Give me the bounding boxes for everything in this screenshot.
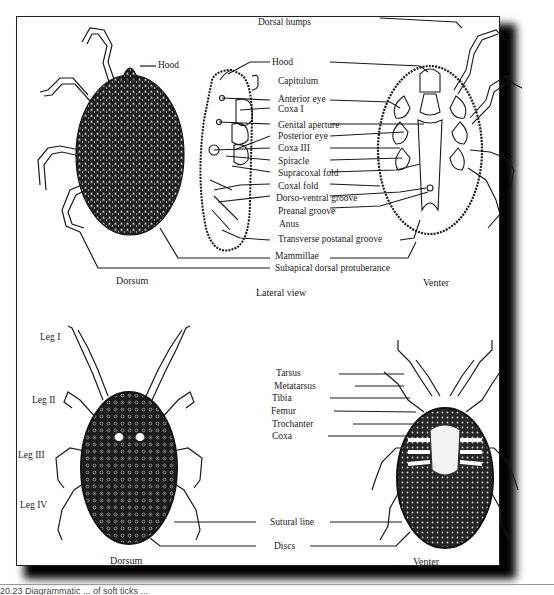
soft-tick-venter [330,18,522,258]
soft-tick-dorsum [38,28,270,268]
label-genital-aperture: Genital aperture [278,120,339,131]
label-capitulum: Capitulum [278,76,318,87]
label-leg-iv: Leg IV [20,500,47,511]
view-label-venter-bottom: Venter [413,556,439,567]
label-mammillae: Mammillae [275,251,319,262]
view-label-dorsum-top: Dorsum [116,275,148,286]
label-leg-iii: Leg III [18,450,45,461]
label-sutural-line: Sutural line [270,517,314,528]
label-dorso-ventral-groove: Dorso-ventral groove [276,193,358,204]
view-label-lateral: Lateral view [256,287,306,298]
soft-tick-lateral [200,62,270,251]
label-coxal-fold: Coxal fold [278,181,318,192]
label-tarsus: Tarsus [276,368,301,379]
label-coxa-iii: Coxa III [278,143,310,154]
label-hood: Hood [272,57,293,68]
figure-caption: 20.23 Diagrammatic ... of soft ticks ... [0,584,554,595]
label-leg-ii: Leg II [32,395,55,406]
label-posterior-eye: Posterior eye [278,131,328,142]
label-trochanter: Trochanter [272,419,313,430]
label-tibia: Tibia [272,393,292,404]
label-anus: Anus [279,219,299,230]
hard-tick-venter [310,340,518,548]
label-preanal-groove: Preanal groove [278,206,335,217]
hard-tick-dorsum [56,326,256,546]
view-label-dorsum-bottom: Dorsum [110,555,142,566]
view-label-venter-top: Venter [423,277,449,288]
label-coxa: Coxa [272,431,292,442]
label-leg-i: Leg I [40,332,60,343]
label-coxa-i: Coxa I [278,104,304,115]
label-spiracle: Spiracle [278,156,309,167]
label-femur: Femur [271,406,296,417]
label-discs: Discs [274,541,295,552]
label-subapical-dorsal-protuberance: Subapical dorsal protuberance [275,263,390,274]
label-hood-dorsum: Hood [158,60,179,71]
label-dorsal-humps: Dorsal humps [258,17,311,28]
label-transverse-postanal-groove: Transverse postanal groove [278,234,382,245]
label-supracoxal-fold: Supracoxal fold [278,168,338,179]
label-metatarsus: Metatarsus [274,381,316,392]
